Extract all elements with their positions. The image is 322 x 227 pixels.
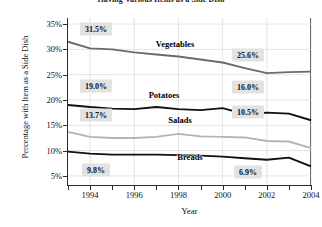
x-tick-label: 2000 (214, 190, 231, 200)
value-callout-salads-end: 10.5% (232, 106, 264, 119)
value-callout-breads-end: 6.9% (234, 166, 262, 179)
x-tick-mark (90, 186, 91, 190)
y-tick-label: 20% (34, 95, 62, 105)
y-tick-label: 5% (34, 171, 62, 181)
y-axis-label: Percentage with Item as a Side Dish (20, 12, 30, 182)
y-tick-label: 30% (34, 44, 62, 54)
y-axis-tick-labels: 5%10%15%20%25%30%35% (34, 0, 62, 227)
line-chart: Having Various Items as a Side Dish Perc… (0, 0, 322, 227)
y-tick-label: 35% (34, 19, 62, 29)
y-tick-mark (63, 24, 68, 25)
series-label-salads: Salads (168, 115, 192, 125)
y-tick-label: 10% (34, 146, 62, 156)
x-tick-label: 2002 (258, 190, 275, 200)
x-tick-mark (245, 186, 246, 190)
value-callout-vegetables-start: 31.5% (80, 23, 112, 36)
x-tick-mark (112, 186, 113, 190)
x-tick-mark (178, 186, 179, 190)
x-tick-mark (68, 186, 69, 190)
series-line-salads (68, 132, 311, 148)
x-tick-label: 2004 (303, 190, 320, 200)
value-callout-potatoes-end: 16.0% (232, 81, 264, 94)
value-callout-potatoes-start: 19.0% (80, 80, 112, 93)
series-label-vegetables: Vegetables (156, 39, 194, 49)
x-axis-line (67, 185, 312, 186)
x-tick-mark (134, 186, 135, 190)
value-callout-salads-start: 13.7% (80, 109, 112, 122)
x-tick-label: 1996 (126, 190, 143, 200)
series-label-potatoes: Potatoes (149, 90, 180, 100)
y-tick-mark (63, 49, 68, 50)
x-tick-mark (201, 186, 202, 190)
x-tick-label: 1998 (170, 190, 187, 200)
x-tick-mark (289, 186, 290, 190)
x-tick-label: 1994 (82, 190, 99, 200)
value-callout-vegetables-end: 25.6% (232, 49, 264, 62)
y-tick-label: 15% (34, 120, 62, 130)
x-tick-mark (311, 186, 312, 190)
y-tick-mark (63, 176, 68, 177)
y-tick-mark (63, 125, 68, 126)
y-tick-mark (63, 75, 68, 76)
x-axis-label: Year (68, 206, 311, 216)
series-label-breads: Breads (177, 152, 202, 162)
x-tick-mark (156, 186, 157, 190)
x-tick-mark (267, 186, 268, 190)
x-tick-mark (223, 186, 224, 190)
y-tick-label: 25% (34, 70, 62, 80)
y-tick-mark (63, 151, 68, 152)
y-tick-mark (63, 100, 68, 101)
value-callout-breads-start: 9.8% (82, 164, 110, 177)
